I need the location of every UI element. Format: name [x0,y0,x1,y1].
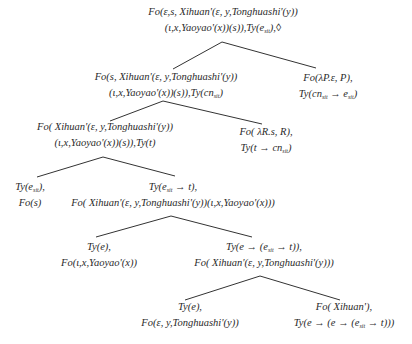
tree-node-l6-right: Fo( Xihuan'), Ty(e → (e → (esit → t))) [294,299,395,331]
edge-n3-right [103,157,175,176]
tree-node-l2-left: Fo(s, Xihuan'(ε, y,Tonghuashi'(y)) (ι,x,… [95,69,238,101]
edge-root-right [222,42,316,68]
node-label-line: Fo(λP.ε, P), [299,70,357,86]
edge-n5-left [185,276,260,300]
node-label-line: Fo( Xihuan'(ε, y,Tonghuashi'(y)) [37,119,173,135]
node-label-line: Fo( λR.s, R), [239,124,292,140]
edge-n5-right [260,276,340,300]
tree-node-l4-left: Ty(esit), Fo(s) [15,179,45,211]
node-label-line: Fo(s, Xihuan'(ε, y,Tonghuashi'(y)) [95,69,238,85]
node-label-line: Ty(e → (esit → t)), [194,239,333,255]
edge-n4-left [96,216,171,237]
tree-node-l2-right: Fo(λP.ε, P), Ty(cnsit → esit) [299,70,357,102]
node-label-line: Ty(e → (e → (esit → t))) [294,315,395,331]
node-label-line: Fo( Xihuan'), [294,299,395,315]
edge-n2-right [163,101,262,124]
edge-n4-right [171,216,252,237]
node-label-line: Ty(e), [141,299,238,315]
tree-edges [0,0,412,344]
tree-node-l4-right: Ty(esit → t), Fo( Xihuan'(ε, y,Tonghuash… [71,179,275,211]
edge-root-left [173,42,222,69]
node-label-line: Fo( Xihuan'(ε, y,Tonghuashi'(y))(ι,x,Yao… [71,195,275,211]
node-label-line: Ty(cnsit → esit) [299,86,357,102]
edge-n2-left [110,101,163,121]
tree-node-l5-right: Ty(e → (esit → t)), Fo( Xihuan'(ε, y,Ton… [194,239,333,271]
tree-node-l3-left: Fo( Xihuan'(ε, y,Tonghuashi'(y)) (ι,x,Ya… [37,119,173,151]
node-label-line: Fo( Xihuan'(ε, y,Tonghuashi'(y))) [194,255,333,271]
node-label-line: Fo(ε, y,Tonghuashi'(y)) [141,315,238,331]
node-label-line: Fo(s) [15,195,45,211]
node-label-line: Ty(esit), [15,179,45,195]
node-label-line: Ty(t → cnsit) [239,140,292,156]
node-label-line: Fo(ε,s, Xihuan'(ε, y,Tonghuashi'(y)) [148,4,297,20]
node-label-line: Ty(esit → t), [71,179,275,195]
node-label-line: (ι,x,Yaoyao'(x))(s)),Ty(esit),◊ [148,20,297,36]
tree-node-l5-left: Ty(e), Fo(ι,x,Yaoyao'(x)) [61,239,137,271]
node-label-line: Ty(e), [61,239,137,255]
tree-node-l6-left: Ty(e), Fo(ε, y,Tonghuashi'(y)) [141,299,238,331]
node-label-line: Fo(ι,x,Yaoyao'(x)) [61,255,137,271]
node-label-line: (ι,x,Yaoyao'(x))(s)),Ty(t) [37,135,173,151]
edge-n3-left [37,157,103,177]
tree-node-root: Fo(ε,s, Xihuan'(ε, y,Tonghuashi'(y)) (ι,… [148,4,297,36]
node-label-line: (ι,x,Yaoyao'(x))(s)),Ty(cnsit) [95,85,238,101]
tree-node-l3-right: Fo( λR.s, R), Ty(t → cnsit) [239,124,292,156]
